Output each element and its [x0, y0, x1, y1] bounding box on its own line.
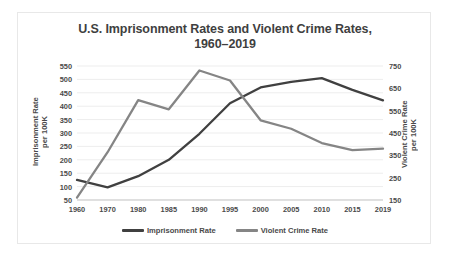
chart-figure: U.S. Imprisonment Rates and Violent Crim… [0, 0, 450, 264]
legend-entry[interactable]: Violent Crime Rate [236, 226, 328, 235]
left-axis-tick: 150 [48, 169, 72, 178]
left-axis-tick: 250 [48, 142, 72, 151]
series-lines [77, 70, 383, 197]
left-axis-tick: 350 [48, 116, 72, 125]
x-axis-tick: 2000 [246, 205, 276, 214]
right-axis-tick: 750 [389, 62, 413, 71]
x-axis-tick: 2015 [337, 205, 367, 214]
right-axis-tick: 450 [389, 129, 413, 138]
legend-line-swatch [122, 229, 144, 232]
gridlines [77, 66, 383, 200]
left-axis-tick: 500 [48, 75, 72, 84]
x-axis-tick: 1960 [62, 205, 92, 214]
right-axis-tick: 250 [389, 174, 413, 183]
legend-line-swatch [236, 229, 258, 232]
x-axis-tick: 1970 [93, 205, 123, 214]
right-axis-tick: 650 [389, 84, 413, 93]
legend-entry[interactable]: Imprisonment Rate [122, 226, 216, 235]
right-axis-tick: 550 [389, 107, 413, 116]
x-axis-tick: 2010 [307, 205, 337, 214]
left-axis-tick: 50 [48, 196, 72, 205]
left-axis-tick: 300 [48, 129, 72, 138]
x-axis-tick: 2005 [276, 205, 306, 214]
right-axis-tick: 150 [389, 196, 413, 205]
legend-label: Imprisonment Rate [147, 226, 216, 235]
left-axis-tick: 100 [48, 183, 72, 192]
left-axis-tick: 400 [48, 102, 72, 111]
left-axis-tick: 450 [48, 89, 72, 98]
x-axis-tick: 1995 [215, 205, 245, 214]
chart-legend: Imprisonment RateViolent Crime Rate [100, 226, 350, 235]
left-axis-tick: 200 [48, 156, 72, 165]
x-axis-tick: 1990 [184, 205, 214, 214]
left-axis-tick: 550 [48, 62, 72, 71]
x-axis-tick: 1980 [123, 205, 153, 214]
right-axis-tick: 350 [389, 151, 413, 160]
series-line-violent-crime-rate [77, 70, 383, 197]
legend-label: Violent Crime Rate [261, 226, 328, 235]
x-axis-tick: 2019 [368, 205, 398, 214]
x-axis-tick: 1985 [154, 205, 184, 214]
